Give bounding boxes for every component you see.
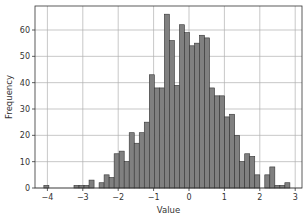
- histogram-bar: [164, 14, 169, 188]
- histogram-bar: [109, 177, 114, 188]
- histogram-bar: [220, 96, 225, 188]
- x-tick-label: −1: [148, 193, 160, 202]
- histogram-bar: [205, 38, 210, 188]
- histogram-bar: [215, 96, 220, 188]
- y-tick-label: 40: [20, 79, 30, 88]
- histogram-bar: [169, 41, 174, 188]
- y-tick-label: 10: [20, 158, 30, 167]
- histogram-bar: [184, 33, 189, 188]
- histogram-bar: [179, 25, 184, 188]
- y-tick-label: 20: [20, 131, 30, 140]
- y-tick-label: 0: [25, 184, 30, 193]
- histogram-bar: [245, 154, 250, 188]
- histogram-bar: [200, 35, 205, 188]
- histogram-bar: [144, 122, 149, 188]
- histogram-bar: [210, 88, 215, 188]
- x-axis-label: Value: [157, 205, 180, 215]
- y-tick-label: 30: [20, 105, 30, 114]
- x-tick-label: −3: [77, 193, 89, 202]
- y-axis-label: Frequency: [4, 75, 14, 119]
- histogram-bar: [174, 85, 179, 188]
- histogram-chart: −4−3−2−10123 0102030405060 Value Frequen…: [0, 0, 306, 222]
- y-tick-label: 50: [20, 52, 30, 61]
- histogram-bar: [104, 175, 109, 188]
- histogram-bar: [129, 133, 134, 188]
- x-axis-ticks: −4−3−2−10123: [42, 188, 298, 202]
- histogram-bar: [134, 143, 139, 188]
- histogram-bar: [230, 114, 235, 188]
- histogram-bar: [235, 135, 240, 188]
- histogram-bar: [124, 162, 129, 188]
- histogram-bar: [194, 43, 199, 188]
- histogram-bar: [250, 156, 255, 188]
- x-tick-label: −4: [42, 193, 54, 202]
- histogram-bar: [89, 180, 94, 188]
- y-tick-label: 60: [20, 26, 30, 35]
- x-tick-label: 2: [257, 193, 262, 202]
- histogram-bar: [240, 162, 245, 188]
- histogram-bar: [114, 154, 119, 188]
- histogram-bar: [159, 88, 164, 188]
- x-tick-label: 1: [222, 193, 227, 202]
- histogram-bar: [119, 151, 124, 188]
- histogram-bar: [265, 175, 270, 188]
- histogram-bar: [154, 88, 159, 188]
- x-tick-label: 3: [293, 193, 298, 202]
- x-tick-label: 0: [186, 193, 191, 202]
- y-axis-ticks: 0102030405060: [20, 26, 35, 193]
- x-tick-label: −2: [112, 193, 124, 202]
- histogram-bar: [149, 75, 154, 188]
- histogram-bar: [99, 183, 104, 188]
- histogram-bar: [189, 46, 194, 188]
- histogram-bar: [255, 175, 260, 188]
- histogram-bar: [225, 117, 230, 188]
- histogram-bar: [285, 183, 290, 188]
- histogram-bar: [139, 133, 144, 188]
- histogram-bar: [270, 167, 275, 188]
